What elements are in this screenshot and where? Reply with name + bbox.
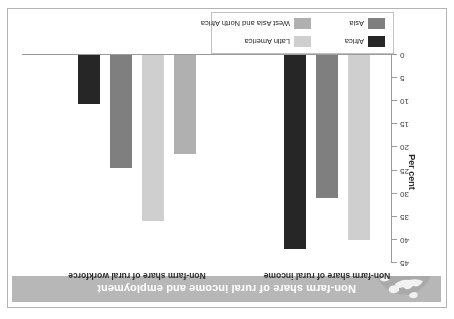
y-axis-tick — [392, 146, 397, 147]
bar-latin-america — [142, 55, 164, 221]
globe-map-icon — [375, 276, 433, 319]
legend-swatch — [294, 18, 311, 29]
bar-west-asia-and-north-africa — [174, 55, 196, 154]
y-axis-tick-label: 40 — [400, 236, 418, 245]
y-axis-tick — [392, 262, 397, 263]
y-axis-tick-label: 10 — [400, 97, 418, 106]
rotated-figure-stage: 2005 Non-farm share of rural income and … — [0, 0, 454, 319]
legend-label: Africa — [345, 36, 364, 47]
y-axis-tick-label: 5 — [400, 74, 418, 83]
bar-africa — [284, 55, 306, 249]
y-axis-tick — [392, 54, 397, 55]
legend-swatch — [294, 36, 311, 47]
group-label: Non-farm share of rural income — [247, 271, 407, 281]
y-axis-tick — [392, 170, 397, 171]
y-axis-tick-label: 45 — [400, 259, 418, 268]
legend-swatch — [368, 36, 385, 47]
y-axis-tick-label: 35 — [400, 213, 418, 222]
plot-area: Per cent 051015202530354045 Non-farm sha… — [22, 55, 418, 263]
y-axis-tick — [392, 123, 397, 124]
y-axis-tick-label: 20 — [400, 143, 418, 152]
bar-africa — [78, 55, 100, 104]
y-axis-tick-label: 0 — [400, 51, 418, 60]
y-axis-tick-label: 15 — [400, 120, 418, 129]
y-axis-tick — [392, 216, 397, 217]
legend-label: Asia — [349, 18, 364, 29]
y-axis-line — [391, 55, 392, 263]
y-axis-tick — [392, 193, 397, 194]
bar-latin-america — [348, 55, 370, 240]
legend-label: Latin America — [245, 36, 290, 47]
y-axis-tick — [392, 77, 397, 78]
legend-swatch — [368, 18, 385, 29]
bar-asia — [316, 55, 338, 198]
group-label: Non-farm share of rural workforce — [57, 271, 217, 281]
y-axis-tick-label: 25 — [400, 167, 418, 176]
y-axis-tick-label: 30 — [400, 190, 418, 199]
bar-asia — [110, 55, 132, 168]
chart-legend: AfricaAsiaLatin AmericaWest Asia and Nor… — [211, 12, 394, 54]
chart-figure: Non-farm share of rural income and emplo… — [7, 8, 447, 308]
y-axis-tick — [392, 100, 397, 101]
legend-label: West Asia and North Africa — [201, 18, 290, 29]
y-axis-tick — [392, 239, 397, 240]
